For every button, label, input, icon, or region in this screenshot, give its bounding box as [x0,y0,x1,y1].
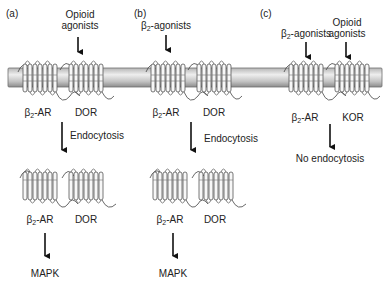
panel-b-internalized-receptors [150,169,246,207]
diagram-canvas [0,0,390,286]
panel-b-outcome-label: MAPK [159,268,187,279]
panel-a-dor-receptor-icon [69,61,103,95]
panel-b-receptor1-label: β2-AR [153,107,180,121]
panel-a-internal-receptor2-label: DOR [75,214,97,225]
panel-a-process-label: Endocytosis [70,130,124,141]
panel-c-kor-receptor-icon [335,61,369,95]
panel-a-receptor1-label: β2-AR [25,107,52,121]
panel-a-receptor2-label: DOR [75,107,97,118]
panel-a-internalized-receptors [20,169,116,207]
panel-a-stimulus-line1: Opioid [66,9,95,20]
panel-a-label: (a) [6,8,18,19]
panel-c-stimulus2-line1: Opioid [333,17,362,28]
panel-c-label: (c) [260,8,272,19]
panel-b-internal-b2ar-icon [153,169,187,203]
plasma-membrane [8,68,382,87]
panel-c-outcome-label: No endocytosis [296,153,364,164]
panel-b-internal-dor-icon [199,169,233,203]
panel-c-stimulus1-label: β2-agonists [281,28,331,42]
panel-b-process-label: Endocytosis [204,133,258,144]
panel-b-receptor2-label: DOR [203,107,225,118]
panel-a-outcome-label: MAPK [31,268,59,279]
panel-b-dor-receptor-icon [197,61,231,95]
panel-a-internal-b2ar-icon [23,169,57,203]
panel-b-internal-receptor1-label: β2-AR [157,214,184,228]
panel-a-internal-receptor1-label: β2-AR [27,214,54,228]
panel-b-label: (b) [134,8,146,19]
panel-a-internal-dor-icon [69,169,103,203]
panel-b-stimulus-label: β2-agonists [141,20,191,34]
panel-a-stimulus-line2: agonists [61,20,98,31]
panel-c-stimulus2-line2: agonists [328,28,365,39]
panel-c-receptor1-label: β2-AR [292,112,319,126]
panel-b-internal-receptor2-label: DOR [204,214,226,225]
panel-c-receptor2-label: KOR [342,112,364,123]
panel-c-b2ar-receptor-icon [289,61,323,95]
panel-a-b2ar-receptor-icon [23,61,57,95]
panel-b-b2ar-receptor-icon [151,61,185,95]
